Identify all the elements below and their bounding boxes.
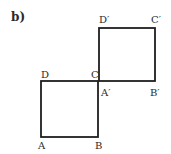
label-c-prime: C′: [151, 15, 161, 25]
label-b-prime: B′: [150, 88, 160, 98]
label-a: A: [38, 141, 45, 151]
squares-diagram: [0, 0, 171, 154]
label-d-prime: D′: [99, 15, 109, 25]
label-c: C: [91, 70, 99, 80]
label-b: B: [95, 141, 102, 151]
square-abcd: [41, 81, 98, 137]
label-a-prime: A′: [101, 88, 111, 98]
square-a-prime-b-prime-c-prime-d-prime: [99, 28, 155, 81]
label-d: D: [41, 70, 49, 80]
figure-b: b) D′ C′ D C A′ B′ A B: [0, 0, 171, 154]
